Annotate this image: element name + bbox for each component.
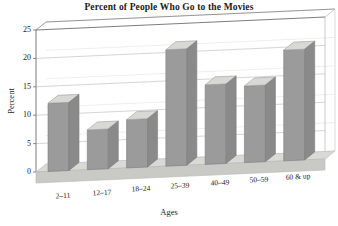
bar-side xyxy=(187,41,197,165)
y-tick-label: 25 xyxy=(13,25,31,34)
bar-side xyxy=(69,94,79,170)
y-tick-label: 10 xyxy=(13,110,31,119)
bar-side xyxy=(148,111,158,167)
bar-front xyxy=(127,119,148,168)
bar-front xyxy=(205,84,226,164)
bar-front xyxy=(244,85,265,163)
y-tick-label: 5 xyxy=(13,139,31,148)
bar-front xyxy=(166,49,187,166)
y-tick-label: 15 xyxy=(13,82,31,91)
bar-front xyxy=(48,102,69,171)
bar-chart: Percent of People Who Go to the Movies P… xyxy=(0,0,338,226)
bar-side xyxy=(108,121,118,169)
bar-side xyxy=(305,41,315,160)
bar-front xyxy=(87,129,108,170)
bar-side xyxy=(265,77,275,162)
bar-front xyxy=(284,49,305,161)
y-tick-label: 20 xyxy=(13,53,31,62)
y-tick-label: 0 xyxy=(13,167,31,176)
bar-side xyxy=(226,76,236,164)
